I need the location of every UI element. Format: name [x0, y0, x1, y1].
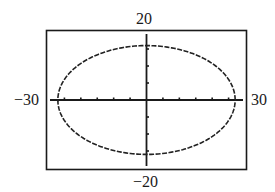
x-min-label: −30 [14, 92, 39, 108]
y-max-label: 20 [136, 11, 152, 27]
y-min-label: −20 [133, 174, 158, 190]
axes [50, 34, 243, 166]
graph-window [0, 0, 275, 192]
x-max-label: 30 [251, 92, 267, 108]
